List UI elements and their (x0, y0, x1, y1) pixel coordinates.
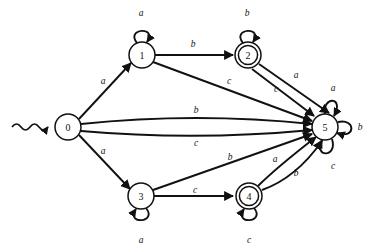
edge-0-3 (79, 135, 130, 189)
self-loop-4 (242, 208, 257, 220)
state-label-1: 1 (140, 50, 145, 61)
state-node-3[interactable]: 3 (128, 183, 154, 209)
edge-label-0-5-b: b (194, 105, 199, 115)
edge-label-3-4-c: c (193, 185, 198, 195)
edge-4-5-a (258, 137, 316, 186)
state-machine-diagram: 0 1 2 3 4 5 a a b c a b c b (0, 0, 377, 252)
edge-label-5-5-b: b (358, 122, 363, 132)
edge-label-2-5-a: a (294, 70, 299, 80)
self-loop-3 (134, 208, 149, 220)
edge-label-1-1-a: a (139, 8, 144, 18)
state-node-0[interactable]: 0 (55, 114, 81, 140)
self-loop-5-c (320, 139, 333, 153)
edge-0-5-c (81, 130, 312, 136)
edge-label-0-3-a: a (101, 146, 106, 156)
edge-label-4-4-c: c (247, 235, 252, 245)
state-node-5[interactable]: 5 (312, 114, 338, 140)
state-label-0: 0 (66, 122, 71, 133)
edge-label-1-2-b: b (191, 39, 196, 49)
diagram-canvas: 0 1 2 3 4 5 a a b c a b c b (0, 0, 377, 252)
edge-label-3-3-a: a (139, 235, 144, 245)
self-loop-5-b (337, 122, 351, 135)
state-node-1[interactable]: 1 (129, 42, 155, 68)
state-label-5: 5 (323, 122, 328, 133)
edge-1-5 (153, 62, 312, 121)
edge-label-0-1-a: a (101, 76, 106, 86)
state-label-4: 4 (247, 191, 252, 202)
state-label-3: 3 (139, 191, 144, 202)
edge-2-5-c (252, 69, 314, 116)
self-loop-1 (134, 31, 149, 43)
edge-label-1-5-c: c (227, 76, 232, 86)
state-label-2: 2 (246, 50, 251, 61)
state-node-4[interactable]: 4 (236, 183, 262, 209)
edge-label-3-5-b: b (228, 152, 233, 162)
edge-0-5-b (81, 118, 312, 124)
edge-label-2-2-b: b (245, 8, 250, 18)
edge-label-5-5-c: c (331, 161, 336, 171)
edge-label-5-5-a: a (331, 83, 336, 93)
start-arrow-squiggle (12, 124, 48, 130)
edge-0-1 (79, 63, 131, 119)
edge-3-5 (153, 134, 312, 190)
edge-label-4-5-b: b (294, 168, 299, 178)
edge-label-4-5-a: a (273, 154, 278, 164)
edge-label-0-5-c: c (194, 138, 199, 148)
state-node-2[interactable]: 2 (235, 42, 261, 68)
self-loop-2 (240, 31, 255, 43)
